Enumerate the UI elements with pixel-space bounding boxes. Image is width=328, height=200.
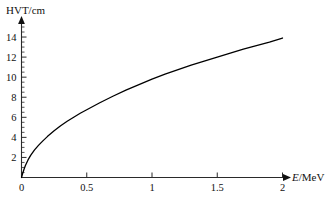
- y-tick-label: 2: [11, 152, 16, 163]
- chart-figure: HVT/cm E/MeV 2468101214 00.511.52: [0, 0, 328, 200]
- x-axis-label: E/MeV: [291, 171, 324, 183]
- x-axis-tick-labels: 00.511.52: [19, 182, 285, 193]
- y-axis-label: HVT/cm: [6, 4, 46, 16]
- axes: [18, 16, 291, 181]
- x-axis-arrowhead: [283, 174, 291, 181]
- y-axis-tick-labels: 2468101214: [6, 32, 17, 163]
- x-tick-label: 0.5: [80, 182, 93, 193]
- x-tick-label: 1: [149, 182, 154, 193]
- y-axis-ticks: [22, 27, 27, 178]
- y-tick-label: 14: [6, 32, 17, 43]
- y-tick-label: 12: [6, 52, 17, 63]
- x-axis-label-unit: /MeV: [299, 171, 325, 183]
- y-axis-arrowhead: [18, 16, 25, 24]
- x-axis-ticks: [87, 173, 283, 178]
- x-tick-label: 1.5: [211, 182, 224, 193]
- series-line-hvt: [22, 38, 283, 177]
- chart-svg: HVT/cm E/MeV 2468101214 00.511.52: [0, 0, 328, 200]
- origin-label: 0: [19, 182, 24, 193]
- x-tick-label: 2: [280, 182, 285, 193]
- y-tick-label: 6: [11, 112, 16, 123]
- y-tick-label: 10: [6, 72, 17, 83]
- y-tick-label: 4: [11, 132, 17, 143]
- data-curve: [22, 38, 283, 177]
- y-tick-label: 8: [11, 92, 16, 103]
